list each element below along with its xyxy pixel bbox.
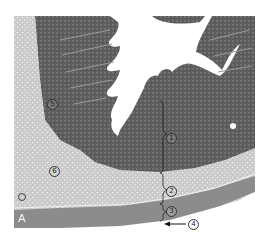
label-2-submucosa: 2 [166,186,177,197]
label-3-muscularis: 3 [166,206,177,217]
label-1-mucosa: 1 [166,133,177,144]
label-4-serosa: 4 [188,219,199,230]
histology-figure: 1 2 3 4 5 6 A [0,0,266,242]
panel-letter: A [18,212,26,225]
label-6: 6 [49,166,60,177]
micrograph [0,0,266,242]
label-5: 5 [47,99,58,110]
